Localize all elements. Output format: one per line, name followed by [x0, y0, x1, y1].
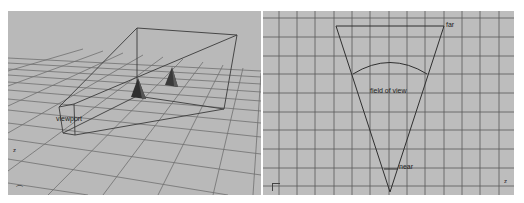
- viewport-corner-icon[interactable]: [272, 183, 280, 191]
- ground-grid: [8, 49, 261, 195]
- axis-label: z: [504, 178, 507, 184]
- viewport-label: viewport: [56, 115, 82, 122]
- view-cube-icon[interactable]: ⌒: [16, 183, 23, 193]
- camera-frustum: [59, 28, 237, 135]
- near-label: near: [399, 163, 413, 170]
- far-label: far: [446, 21, 454, 28]
- top-scene: [263, 11, 514, 195]
- top-viewport[interactable]: far field of view near z: [263, 11, 514, 195]
- perspective-viewport[interactable]: viewport z ⌒: [8, 11, 261, 195]
- perspective-scene: [8, 11, 261, 195]
- top-grid: [263, 11, 514, 195]
- field-of-view-label: field of view: [370, 87, 407, 94]
- axis-label: z: [13, 147, 16, 153]
